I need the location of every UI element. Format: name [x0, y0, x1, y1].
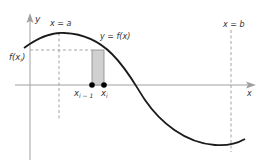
y-axis: [27, 13, 34, 160]
f-xi-label: f(xi): [9, 52, 25, 63]
curve-f: [24, 33, 245, 145]
x-i-label: xi: [100, 88, 108, 99]
y-axis-label: y: [34, 14, 41, 24]
x-i-minus-1-label: xi − 1: [73, 88, 93, 99]
riemann-rectangle: [92, 50, 104, 85]
x-axis-label: x: [246, 89, 252, 98]
x-equals-b-label: x = b: [222, 20, 245, 29]
point-x-i: [101, 82, 107, 88]
curve-label: y = f(x): [99, 32, 130, 41]
riemann-diagram: y x x = a x = b y = f(x) f(xi) xi − 1 xi: [0, 0, 266, 164]
x-equals-a-label: x = a: [49, 19, 72, 28]
point-x-i-minus-1: [89, 82, 95, 88]
